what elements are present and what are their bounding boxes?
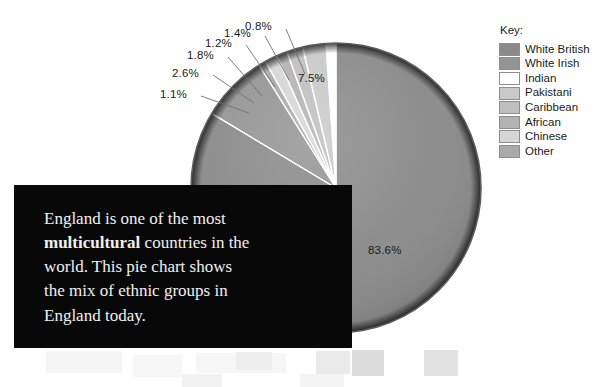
decorative-square (182, 374, 222, 387)
legend-item-label: Pakistani (525, 87, 572, 99)
callout-label-indian: 1.1% (160, 88, 187, 100)
chart-canvas: 7.5% 83.6% 1.1% 2.6% 1.8% 1.2% 1.4% 0.8%… (0, 0, 614, 387)
caption-part-1: England is one of the most (44, 209, 226, 228)
legend-item: Indian (499, 71, 611, 86)
legend-item-label: White British (525, 44, 590, 56)
legend-item: African (499, 115, 611, 130)
legend-item: Chinese (499, 130, 611, 145)
decorative-square (133, 355, 183, 377)
legend-title: Key: (500, 24, 611, 36)
callout-label-caribbean: 1.8% (187, 49, 214, 61)
legend-swatch (499, 101, 520, 114)
caption-bold-word: multicultural (44, 233, 140, 252)
legend-item-label: Chinese (525, 131, 567, 143)
legend-swatch (499, 116, 520, 129)
legend-item-label: White Irish (525, 58, 579, 70)
decorative-square (352, 350, 384, 376)
legend-item: Pakistani (499, 86, 611, 101)
decorative-square (46, 351, 122, 373)
legend-swatch (499, 43, 520, 56)
legend-item-label: Caribbean (525, 102, 578, 114)
decorative-square (300, 374, 344, 387)
legend-item: White Irish (499, 57, 611, 72)
callout-label-other: 0.8% (245, 20, 272, 32)
legend-rows: White BritishWhite IrishIndianPakistaniC… (499, 42, 611, 159)
legend-item-label: Indian (525, 73, 556, 85)
legend-item: Other (499, 144, 611, 159)
legend-item-label: Other (525, 146, 554, 158)
legend-swatch (499, 57, 520, 70)
decorative-square (316, 351, 350, 374)
legend: Key: White BritishWhite IrishIndianPakis… (499, 24, 611, 159)
decorative-square (424, 350, 458, 376)
slice-label-white-british: 83.6% (368, 244, 402, 256)
legend-item: Caribbean (499, 100, 611, 115)
caption-panel: England is one of the most multicultural… (14, 185, 352, 348)
legend-item-label: African (525, 117, 561, 129)
callout-label-pakistani: 2.6% (172, 67, 199, 79)
decorative-square (236, 352, 272, 370)
legend-swatch (499, 130, 520, 143)
legend-swatch (499, 72, 520, 85)
caption-text: England is one of the most multicultural… (44, 207, 254, 328)
slice-label-white-irish: 7.5% (298, 72, 325, 84)
legend-swatch (499, 87, 520, 100)
legend-swatch (499, 145, 520, 158)
legend-item: White British (499, 42, 611, 57)
